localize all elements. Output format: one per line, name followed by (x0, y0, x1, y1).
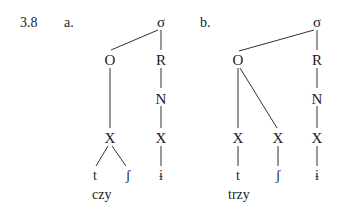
edge-onset-x2 (240, 68, 277, 128)
syllable-structure-diagram: 3.8 a. σ O R N X X t ʃ ɨ czy b. (0, 0, 344, 212)
edge-x-sh (112, 146, 126, 166)
sigma-node: σ (313, 14, 321, 30)
edge-sigma-onset (111, 30, 158, 50)
tree-a-label: a. (64, 15, 74, 30)
rhyme-node: R (156, 52, 166, 68)
onset-node: O (105, 52, 116, 68)
segment-t: t (236, 168, 240, 183)
rhyme-node: R (312, 52, 322, 68)
tree-b: b. σ O R N X X X t ʃ ɨ trzy (200, 14, 323, 202)
tree-a: a. σ O R N X X t ʃ ɨ czy (64, 14, 167, 202)
nucleus-node: N (312, 91, 323, 107)
nucleus-x-slot: X (156, 130, 167, 146)
segment-esh: ʃ (125, 168, 131, 183)
word-trzy: trzy (228, 187, 250, 202)
onset-node: O (233, 52, 244, 68)
nucleus-x-slot: X (312, 130, 323, 146)
onset-x-slot: X (105, 130, 116, 146)
onset-x-slot-1: X (233, 130, 244, 146)
segment-barred-i: ɨ (315, 168, 319, 183)
sigma-node: σ (157, 14, 165, 30)
tree-b-label: b. (200, 15, 211, 30)
edge-sigma-onset (239, 30, 314, 51)
segment-t: t (93, 168, 97, 183)
example-number: 3.8 (20, 15, 38, 30)
onset-x-slot-2: X (273, 130, 284, 146)
edge-x-t (96, 146, 108, 166)
segment-esh: ʃ (275, 168, 281, 183)
segment-barred-i: ɨ (159, 168, 163, 183)
nucleus-node: N (156, 91, 167, 107)
word-czy: czy (92, 187, 111, 202)
